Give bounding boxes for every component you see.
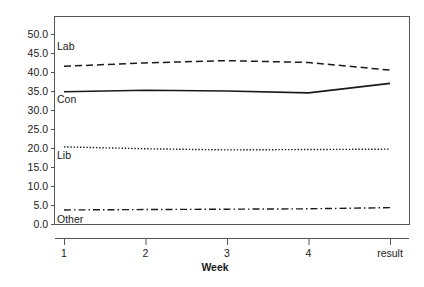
x-tick-label: 4 [306,247,312,259]
y-tick-label: 0.0 [33,218,48,230]
y-tick-label: 30.0 [28,104,49,116]
y-tick-label: 25.0 [28,123,49,135]
series-line-other [64,208,390,210]
plot-frame [55,17,410,225]
series-line-con [64,83,390,93]
x-tick-label: 3 [224,247,230,259]
x-axis-title: Week [201,261,228,273]
series-label-con: Con [57,93,76,105]
series-label-lib: Lib [57,149,71,161]
series-group [64,61,390,210]
y-axis: 0.05.010.015.020.025.030.035.040.045.050… [28,28,55,230]
x-tick-label: 2 [143,247,149,259]
y-tick-label: 15.0 [28,161,49,173]
y-tick-label: 5.0 [33,199,48,211]
series-label-lab: Lab [57,40,75,52]
y-tick-label: 40.0 [28,66,49,78]
y-tick-label: 35.0 [28,85,49,97]
x-tick-label: result [377,247,403,259]
x-tick-label: 1 [61,247,67,259]
y-tick-label: 45.0 [28,47,49,59]
series-line-lib [64,147,390,150]
chart-container: 0.05.010.015.020.025.030.035.040.045.050… [0,0,424,287]
x-axis: 1234result [55,238,409,259]
series-annotations: LabConLibOther [57,40,84,225]
y-tick-label: 50.0 [28,28,49,40]
y-tick-label: 20.0 [28,142,49,154]
series-line-lab [64,61,390,71]
y-tick-label: 10.0 [28,180,49,192]
series-label-other: Other [57,213,84,225]
line-chart: 0.05.010.015.020.025.030.035.040.045.050… [0,0,424,287]
